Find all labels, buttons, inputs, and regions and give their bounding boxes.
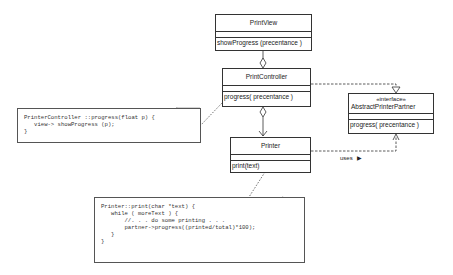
class-name: PrintView (216, 15, 311, 32)
operation: showProgress (precentance ) (216, 38, 311, 49)
stereotype-label: «interface» (351, 96, 431, 103)
class-print-controller[interactable]: PrintController progress( precentance ) (222, 68, 311, 107)
realization-line (311, 84, 396, 90)
aggregation-diamond-icon (260, 58, 266, 68)
class-print-view[interactable]: PrintView showProgress (precentance ) (215, 14, 312, 51)
uses-direction-arrow-icon: ▶ (357, 155, 362, 161)
uses-label: uses ▶ (340, 154, 362, 161)
operation: print(text) (231, 161, 310, 172)
class-printer[interactable]: Printer print(text) (230, 137, 311, 173)
dependency-line-uses (311, 136, 396, 151)
class-name: PrintController (223, 69, 310, 86)
operation: progress( precentance ) (223, 92, 310, 103)
aggregation-diamond-icon (260, 107, 266, 117)
interface-header: «interface» AbstractPrinterPartner (349, 94, 433, 114)
note-anchor-controller (200, 103, 222, 126)
note-controller-progress: PrinterController ::progress(float p) { … (17, 108, 201, 143)
uses-text: uses (340, 155, 353, 161)
interface-abstract-printer-partner[interactable]: «interface» AbstractPrinterPartner progr… (348, 93, 434, 134)
operation: progress( precentance ) (349, 120, 433, 131)
class-name: AbstractPrinterPartner (351, 103, 415, 110)
note-anchor-printer (249, 172, 265, 197)
note-printer-print: Printer::print(char *text) { while ( mor… (94, 197, 305, 263)
class-name: Printer (231, 138, 310, 155)
